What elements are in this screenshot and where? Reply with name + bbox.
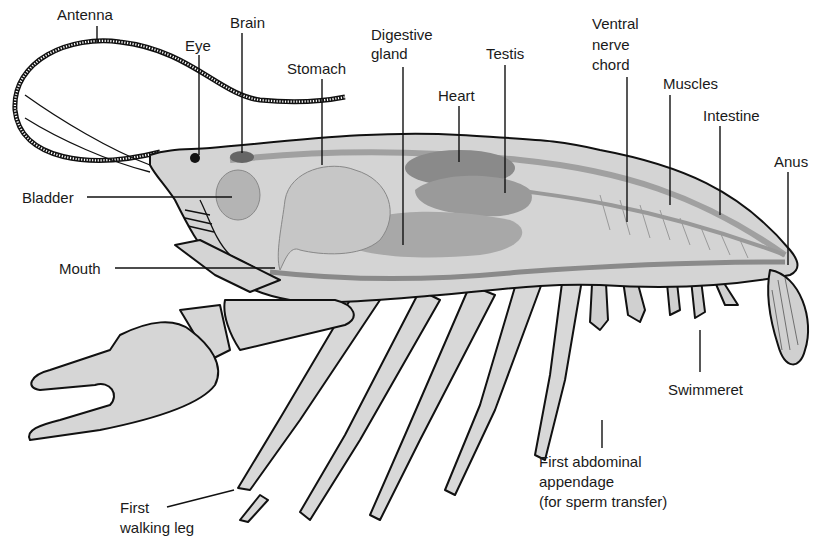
label-intestine: Intestine — [703, 107, 760, 124]
label-ventral-nerve-line2: nerve — [592, 36, 630, 53]
label-heart: Heart — [438, 87, 475, 104]
label-muscles: Muscles — [663, 75, 718, 92]
label-first-abdominal-line1: First abdominal — [539, 453, 642, 470]
label-swimmeret: Swimmeret — [668, 381, 743, 398]
label-ventral-nerve-line3: chord — [592, 56, 630, 73]
label-digestive-gland-line1: Digestive — [371, 26, 433, 43]
label-anus: Anus — [774, 153, 808, 170]
label-bladder: Bladder — [22, 189, 74, 206]
label-eye: Eye — [185, 37, 211, 54]
label-first-walking-leg-line1: First — [120, 499, 149, 516]
label-first-abdominal-line2: appendage — [539, 473, 614, 490]
label-brain: Brain — [230, 14, 265, 31]
label-mouth: Mouth — [59, 260, 101, 277]
body-illustration — [150, 134, 798, 302]
label-digestive-gland-line2: gland — [371, 45, 408, 62]
tail-fan-illustration — [768, 270, 808, 364]
label-antenna: Antenna — [57, 6, 113, 23]
claw-illustration — [29, 300, 354, 440]
label-stomach: Stomach — [287, 60, 346, 77]
label-first-abdominal-line3: (for sperm transfer) — [539, 493, 667, 510]
label-first-walking-leg-line2: walking leg — [120, 519, 194, 536]
label-ventral-nerve-line1: Ventral — [592, 15, 639, 32]
label-testis: Testis — [486, 45, 524, 62]
